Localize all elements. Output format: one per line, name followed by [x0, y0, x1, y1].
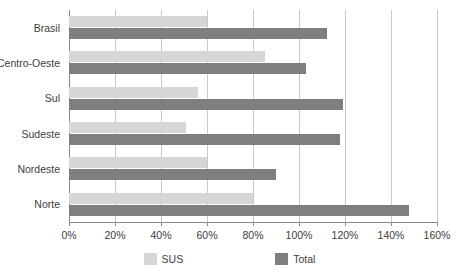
y-axis-label-sudeste: Sudeste [21, 116, 60, 151]
bar-total-centro-oeste [69, 63, 306, 74]
y-axis-label-nordeste: Nordeste [17, 151, 60, 186]
legend-label: SUS [162, 253, 184, 265]
bar-group [69, 45, 437, 80]
bar-sus-nordeste [69, 157, 207, 168]
legend-item-sus[interactable]: SUS [144, 253, 184, 265]
x-axis-tick-160 [437, 222, 438, 226]
x-axis-tick-100 [299, 222, 300, 226]
x-axis-tick-0 [69, 222, 70, 226]
x-axis-tick-60 [207, 222, 208, 226]
bar-total-nordeste [69, 169, 276, 180]
y-axis-label-centro-oeste: Centro-Oeste [0, 45, 60, 80]
bar-group [69, 10, 437, 45]
legend-swatch-icon [275, 253, 288, 265]
bar-groups [69, 10, 437, 222]
x-axis-tick-label-40: 40% [150, 229, 171, 241]
bar-sus-norte [69, 193, 253, 204]
x-axis-tick-label-20: 20% [104, 229, 125, 241]
bar-chart: BrasilCentro-OesteSulSudesteNordesteNort… [0, 0, 459, 274]
legend-swatch-icon [144, 253, 157, 265]
y-axis-label-brasil: Brasil [34, 10, 60, 45]
bar-sus-sudeste [69, 122, 186, 133]
gridline-160 [437, 10, 438, 222]
bar-group [69, 151, 437, 186]
plot-area [69, 10, 437, 222]
bar-total-norte [69, 205, 409, 216]
bar-group [69, 116, 437, 151]
x-axis-tick-80 [253, 222, 254, 226]
chart-legend: SUSTotal [0, 250, 459, 268]
bar-sus-centro-oeste [69, 51, 265, 62]
x-axis-tick-120 [345, 222, 346, 226]
legend-label: Total [293, 253, 315, 265]
x-axis-tick-20 [115, 222, 116, 226]
y-axis-label-norte: Norte [34, 187, 60, 222]
x-axis-tick-label-100: 100% [286, 229, 313, 241]
bar-total-sudeste [69, 134, 340, 145]
bar-total-sul [69, 99, 343, 110]
x-axis-tick-label-140: 140% [378, 229, 405, 241]
bar-total-brasil [69, 28, 327, 39]
y-axis-labels: BrasilCentro-OesteSulSudesteNordesteNort… [0, 10, 64, 222]
x-axis-tick-40 [161, 222, 162, 226]
bar-group [69, 81, 437, 116]
x-axis-tick-label-0: 0% [61, 229, 76, 241]
bar-group [69, 187, 437, 222]
x-axis-tick-label-80: 80% [242, 229, 263, 241]
bar-sus-sul [69, 87, 198, 98]
x-axis-tick-label-120: 120% [332, 229, 359, 241]
y-axis-label-sul: Sul [45, 81, 60, 116]
x-axis-tick-label-60: 60% [196, 229, 217, 241]
bar-sus-brasil [69, 16, 207, 27]
legend-item-total[interactable]: Total [275, 253, 315, 265]
x-axis-tick-label-160: 160% [424, 229, 451, 241]
x-axis-tick-140 [391, 222, 392, 226]
